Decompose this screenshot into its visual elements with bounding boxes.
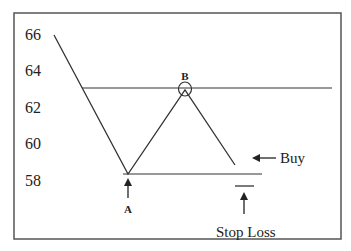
chart-frame	[14, 13, 341, 239]
y-tick-66: 66	[25, 26, 41, 43]
y-tick-58: 58	[25, 172, 41, 189]
y-tick-64: 64	[25, 62, 41, 79]
double-bottom-diagram: 66 64 62 60 58 B A Buy Stop Loss	[0, 0, 351, 251]
point-b-label: B	[181, 70, 189, 82]
stop-loss-label: Stop Loss	[216, 224, 276, 240]
point-a-label: A	[124, 203, 132, 215]
buy-label: Buy	[280, 150, 306, 166]
price-path	[54, 35, 235, 174]
y-tick-62: 62	[25, 99, 41, 116]
y-tick-60: 60	[25, 135, 41, 152]
